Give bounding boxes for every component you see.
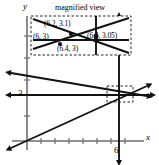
x-tick-label-6: 6 [114, 146, 119, 155]
point-label-6_4-3: (6.4, 3) [57, 45, 78, 53]
point-label-6_2-3_1: (6.2, 3.1) [44, 20, 71, 28]
point-label-6_4-3_05: (6.4, 3.05) [87, 32, 117, 40]
y-tick-label-3: 3 [18, 89, 23, 98]
y-axis-label: y [23, 2, 27, 11]
x-axis-label: x [146, 133, 150, 142]
math-figure: magnified view (6.2, 3.1) (6, 3) (6.4, 3… [0, 0, 159, 165]
magnified-view-caption: magnified view [55, 4, 105, 12]
descending-line [11, 73, 147, 96]
figure-canvas [0, 0, 159, 165]
point-label-6-3: (6, 3) [33, 33, 49, 41]
inset-point-6_2-3_1 [69, 32, 73, 36]
